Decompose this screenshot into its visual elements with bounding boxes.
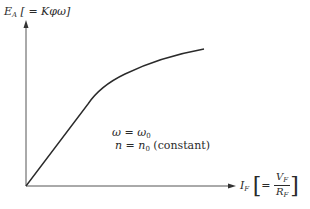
x-axis-label: IF [= VF RF ] [240,172,299,199]
y-axis-arrow-icon [24,20,29,28]
y-axis-relation: [ = Kφω] [17,5,70,18]
fraction-denominator: RF [274,186,290,199]
magnetization-curve [26,49,204,186]
annotation-speed: n = n0 (constant) [115,140,210,153]
numerator-sub: F [283,176,288,184]
y-axis-label: EA [ = Kφω] [4,6,70,19]
close-bracket: ] [290,173,299,198]
omega-symbol: ω [112,126,121,139]
x-axis-subscript: F [244,185,249,193]
fraction-numerator: VF [274,172,290,186]
x-axis-eq: = [261,179,270,192]
x-axis-arrow-icon [228,184,236,189]
omega-eq: = [121,126,137,139]
y-axis-symbol: E [4,5,12,18]
x-axis-fraction: VF RF [274,172,290,199]
constant-note: (constant) [150,139,210,152]
speed-eq: = [122,139,138,152]
denominator-sub: F [283,191,288,199]
omega-zero-symbol: ω [137,126,146,139]
